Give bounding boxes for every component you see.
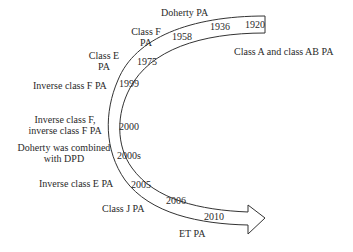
year-1920: 1920 — [245, 19, 265, 30]
label-class-f-pa: Class F PA — [126, 26, 166, 48]
label-class-e-pa-line2: PA — [84, 61, 124, 72]
year-2005: 2005 — [131, 179, 151, 190]
year-2006: 2006 — [166, 195, 186, 206]
label-class-f-pa-line2: PA — [126, 37, 166, 48]
label-class-f-pa-line1: Class F — [126, 26, 166, 37]
label-inverse-class-f-pa: Inverse class F PA — [33, 80, 107, 91]
label-doherty-with-dpd-line1: Doherty was combined — [14, 142, 114, 153]
label-class-j-pa: Class J PA — [102, 203, 144, 214]
year-1958: 1958 — [172, 31, 192, 42]
year-1936: 1936 — [210, 21, 230, 32]
pa-evolution-timeline-diagram: 1920 1936 1958 1975 1999 2000 2000s 2005… — [0, 0, 353, 252]
year-2010: 2010 — [204, 211, 224, 222]
year-2000: 2000 — [119, 121, 139, 132]
label-doherty-with-dpd-line2: with DPD — [14, 153, 114, 164]
label-doherty-with-dpd: Doherty was combined with DPD — [14, 142, 114, 164]
label-class-e-pa-line1: Class E — [84, 50, 124, 61]
label-inverse-class-f-combo-line1: Inverse class F, — [25, 114, 105, 125]
arrowhead-icon — [248, 205, 265, 234]
label-inverse-class-e-pa: Inverse class E PA — [39, 178, 113, 189]
year-1999: 1999 — [119, 78, 139, 89]
label-inverse-class-f-combo-line2: inverse class F PA — [25, 125, 105, 136]
label-et-pa: ET PA — [179, 228, 205, 239]
label-class-a-ab-pa: Class A and class AB PA — [234, 46, 333, 57]
label-doherty-pa: Doherty PA — [161, 7, 208, 18]
label-class-e-pa: Class E PA — [84, 50, 124, 72]
year-1975: 1975 — [137, 56, 157, 67]
label-inverse-class-f-combo: Inverse class F, inverse class F PA — [25, 114, 105, 136]
year-2000s: 2000s — [117, 150, 141, 161]
